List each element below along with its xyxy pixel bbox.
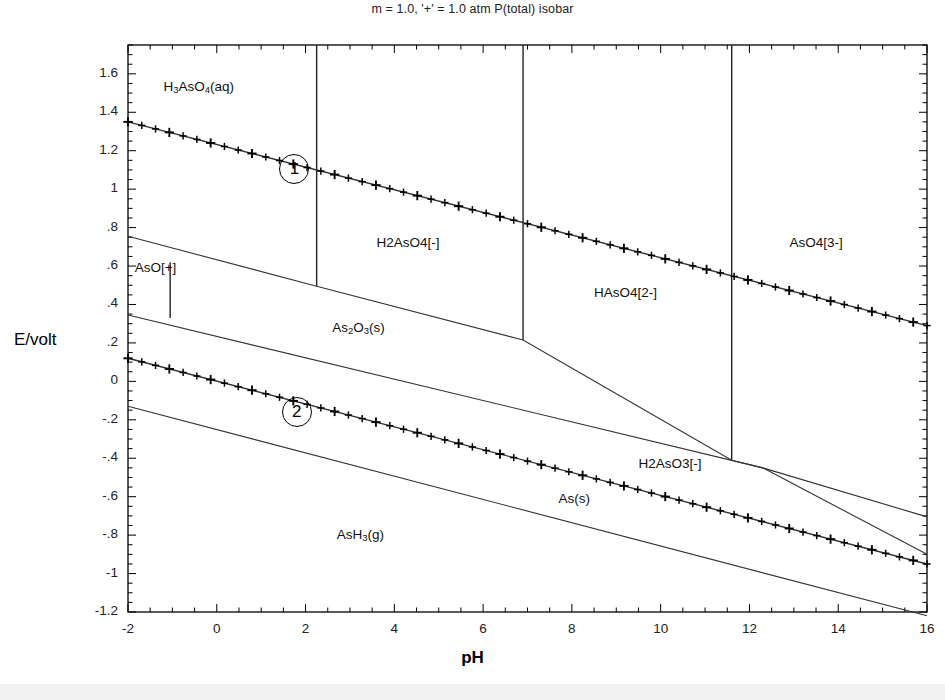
phase-boundary-vertical-lines (170, 45, 732, 460)
y-tick-label: 1 (62, 180, 118, 195)
y-tick-label: .2 (62, 334, 118, 349)
y-tick-label: 1.6 (62, 65, 118, 80)
x-tick-label: 12 (729, 621, 769, 636)
y-tick-label: -.2 (62, 411, 118, 426)
y-tick-label: .4 (62, 295, 118, 310)
plot-canvas (0, 0, 945, 700)
x-tick-label: -2 (108, 621, 148, 636)
species-label: As2O3(s) (332, 321, 385, 336)
x-tick-label: 6 (463, 621, 503, 636)
x-tick-label: 2 (286, 621, 326, 636)
axis-ticks (128, 45, 927, 612)
y-tick-label: .8 (62, 219, 118, 234)
x-tick-label: 4 (374, 621, 414, 636)
x-tick-label: 14 (818, 621, 858, 636)
circled-number-marker: 2 (282, 397, 312, 427)
y-tick-label: -.8 (62, 526, 118, 541)
plot-frame (128, 45, 927, 612)
y-tick-label: .6 (62, 257, 118, 272)
x-tick-label: 0 (197, 621, 237, 636)
species-label: H2AsO4[-] (377, 236, 440, 250)
species-label: AsO[+] (135, 261, 177, 275)
species-label: H3AsO4(aq) (164, 80, 235, 95)
y-tick-label: -.4 (62, 449, 118, 464)
x-tick-label: 8 (552, 621, 592, 636)
species-label: As(s) (559, 492, 591, 506)
species-label: AsO4[3-] (789, 236, 842, 250)
y-tick-label: -1.2 (62, 603, 118, 618)
y-tick-label: 1.2 (62, 142, 118, 157)
species-label: HAsO4[2-] (594, 286, 657, 300)
species-label: H2AsO3[-] (638, 457, 701, 471)
phase-boundary-curves (128, 122, 927, 616)
y-tick-label: -1 (62, 565, 118, 580)
y-tick-label: 0 (62, 372, 118, 387)
bottom-edge-band (0, 684, 945, 700)
x-tick-label: 16 (907, 621, 945, 636)
y-tick-label: 1.4 (62, 103, 118, 118)
species-label: AsH3(g) (337, 528, 384, 543)
x-tick-label: 10 (641, 621, 681, 636)
y-tick-label: -.6 (62, 488, 118, 503)
pourbaix-diagram-figure: m = 1.0, '+' = 1.0 atm P(total) isobar E… (0, 0, 945, 700)
